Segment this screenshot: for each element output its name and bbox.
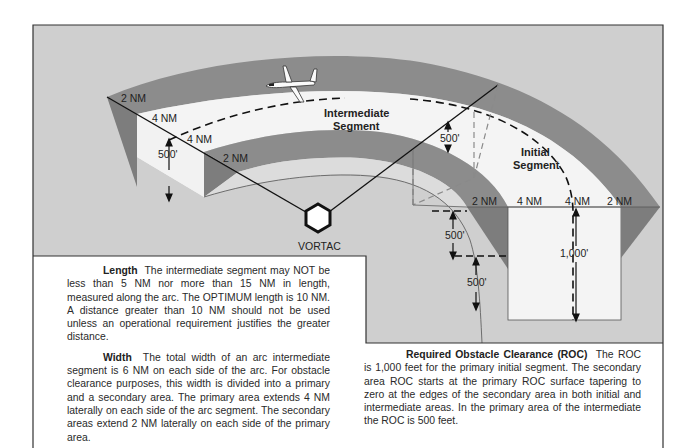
label-right-taper-lower: 500' [467, 276, 487, 288]
roc-text: Required Obstacle Clearance (ROC) The RO… [364, 348, 641, 435]
label-right-taper-upper: 500' [445, 229, 465, 241]
length-width-text: Length The intermediate segment may NOT … [67, 264, 330, 448]
length-paragraph: Length The intermediate segment may NOT … [67, 264, 330, 344]
right-primary-wall [508, 207, 621, 320]
label-primary-height: 1,000' [560, 247, 588, 259]
label-mid-height: 500' [440, 132, 460, 144]
length-heading: Length [103, 265, 138, 276]
length-body: The intermediate segment may NOT be less… [67, 265, 330, 342]
label-initial-segment-1: Initial [521, 146, 550, 158]
label-right-secondary-1: 2 NM [472, 195, 497, 207]
roc-paragraph: Required Obstacle Clearance (ROC) The RO… [364, 348, 641, 428]
label-right-primary-2: 4 NM [565, 195, 590, 207]
width-heading: Width [103, 352, 132, 363]
label-left-inner-secondary: 2 NM [223, 152, 248, 164]
label-left-outer-primary: 4 NM [152, 112, 177, 124]
label-right-secondary-2: 2 NM [607, 195, 632, 207]
label-intermediate-segment-2: Segment [333, 120, 380, 132]
label-initial-segment-2: Segment [513, 159, 560, 171]
roc-heading: Required Obstacle Clearance (ROC) [406, 349, 587, 360]
vortac-hexagon-icon [306, 204, 330, 232]
label-right-primary-1: 4 NM [517, 195, 542, 207]
label-left-outer-secondary: 2 NM [121, 92, 146, 104]
roc-body: The ROC is 1,000 feet for the primary in… [364, 349, 641, 426]
width-body: The total width of an arc intermediate s… [67, 352, 330, 443]
width-paragraph: Width The total width of an arc intermed… [67, 351, 330, 444]
label-left-inner-primary: 4 NM [187, 133, 212, 145]
label-left-height: 500' [158, 148, 178, 160]
label-intermediate-segment-1: Intermediate [324, 107, 389, 119]
label-vortac: VORTAC [298, 240, 341, 252]
